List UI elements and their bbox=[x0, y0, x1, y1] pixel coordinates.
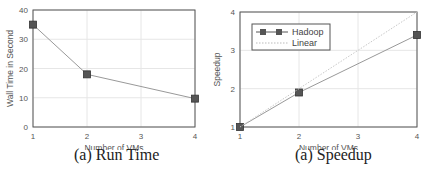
legend-linear-label: Linear bbox=[292, 38, 317, 48]
legend-hadoop-marker bbox=[260, 29, 266, 35]
y-axis-label: Speedup bbox=[213, 52, 222, 86]
x-tick-label: 3 bbox=[356, 132, 361, 141]
y-tick-label: 0 bbox=[24, 123, 29, 132]
y-tick-label: 2 bbox=[231, 85, 236, 94]
y-tick-label: 4 bbox=[231, 8, 236, 17]
speedup-chart: 12341234Number of VMsSpeedupHadoopLinear bbox=[213, 0, 427, 150]
speedup-caption: (a) Speedup bbox=[295, 146, 372, 164]
data-point-marker bbox=[296, 89, 303, 96]
y-tick-label: 10 bbox=[19, 94, 28, 103]
y-tick-label: 3 bbox=[231, 46, 236, 55]
y-tick-label: 30 bbox=[19, 35, 28, 44]
y-tick-label: 20 bbox=[19, 65, 28, 74]
speedup-figure: 12341234Number of VMsSpeedupHadoopLinear… bbox=[213, 0, 427, 177]
run-time-chart: 0102030401234Number of VMsWall Time in S… bbox=[0, 0, 213, 150]
y-axis-label: Wall Time in Second bbox=[5, 30, 15, 107]
series-line bbox=[33, 25, 195, 99]
x-tick-label: 4 bbox=[193, 132, 198, 141]
x-tick-label: 2 bbox=[297, 132, 302, 141]
x-tick-label: 4 bbox=[415, 132, 420, 141]
y-tick-label: 40 bbox=[19, 6, 28, 15]
x-tick-label: 1 bbox=[31, 132, 36, 141]
run-time-caption: (a) Run Time bbox=[74, 146, 159, 164]
legend-hadoop-label: Hadoop bbox=[292, 27, 324, 37]
x-tick-label: 1 bbox=[238, 132, 243, 141]
run-time-figure: 0102030401234Number of VMsWall Time in S… bbox=[0, 0, 213, 177]
data-point-marker bbox=[30, 21, 37, 28]
data-point-marker bbox=[84, 71, 91, 78]
x-tick-label: 2 bbox=[85, 132, 90, 141]
data-point-marker bbox=[414, 32, 421, 39]
legend-hadoop-marker bbox=[276, 29, 282, 35]
x-tick-label: 3 bbox=[139, 132, 144, 141]
y-tick-label: 1 bbox=[231, 123, 236, 132]
data-point-marker bbox=[192, 95, 199, 102]
